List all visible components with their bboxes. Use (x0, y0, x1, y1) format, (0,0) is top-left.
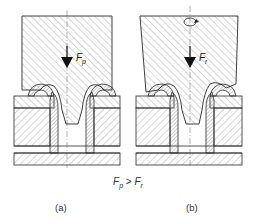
panel-a (14, 10, 120, 168)
caption-a: (a) (55, 202, 67, 213)
lower-plate-left-b (136, 108, 170, 146)
lower-plate-right-a (94, 108, 120, 146)
upper-sheet-right-b (210, 96, 242, 108)
rivet-wall-right-a (86, 92, 94, 153)
force-label-a: Fp (76, 52, 86, 65)
rivet-wall-left-b (170, 92, 178, 153)
anvil-b (136, 153, 242, 165)
rivet-wall-right-b (206, 92, 214, 153)
force-subscript-a: p (82, 58, 86, 65)
upper-sheet-left-a (14, 96, 54, 108)
lower-plate-left-a (14, 108, 50, 146)
lower-plate-right-b (214, 108, 242, 146)
relation-right-subscript: r (141, 182, 143, 189)
force-subscript-b: r (205, 58, 207, 65)
relation-operator: > (123, 176, 134, 187)
force-label-b: Fr (199, 52, 207, 65)
panel-b (136, 6, 242, 168)
upper-sheet-right-a (90, 96, 120, 108)
rivet-wall-left-a (50, 92, 58, 153)
force-relation: Fp > Fr (0, 176, 256, 189)
caption-b: (b) (186, 202, 198, 213)
upper-sheet-left-b (136, 96, 174, 108)
